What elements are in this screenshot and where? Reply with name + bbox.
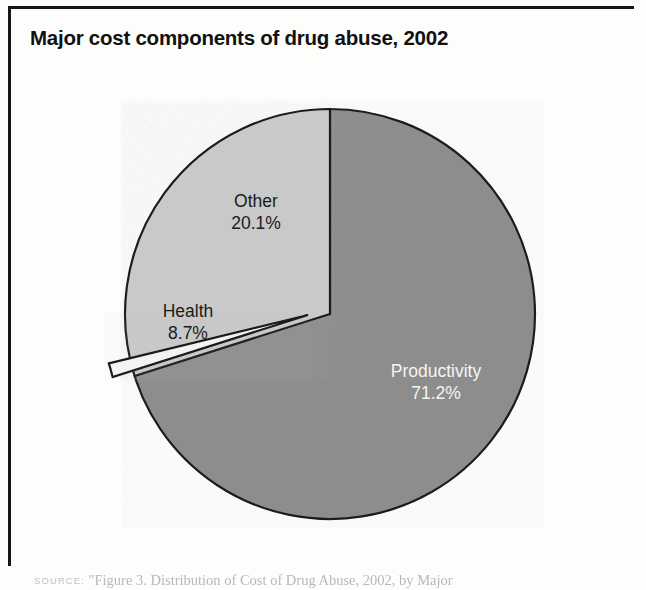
pie-chart: Other 20.1% Health 8.7% Productivity 71.… — [0, 0, 646, 590]
pie-label-other: Other 20.1% — [194, 190, 318, 235]
source-caption: SOURCE: "Figure 3. Distribution of Cost … — [34, 572, 634, 590]
pie-label-productivity-name: Productivity — [368, 360, 504, 382]
pie-chart-svg — [0, 0, 646, 590]
pie-label-health-value: 8.7% — [136, 322, 240, 344]
figure-page: Major cost components of drug abuse, 200… — [0, 0, 646, 590]
pie-label-health-name: Health — [136, 300, 240, 322]
source-caption-text: "Figure 3. Distribution of Cost of Drug … — [89, 572, 453, 588]
pie-label-other-value: 20.1% — [194, 212, 318, 234]
source-caption-tag: SOURCE: — [34, 575, 85, 586]
pie-label-productivity: Productivity 71.2% — [368, 360, 504, 405]
pie-label-productivity-value: 71.2% — [368, 382, 504, 404]
pie-label-other-name: Other — [194, 190, 318, 212]
pie-label-health: Health 8.7% — [136, 300, 240, 345]
